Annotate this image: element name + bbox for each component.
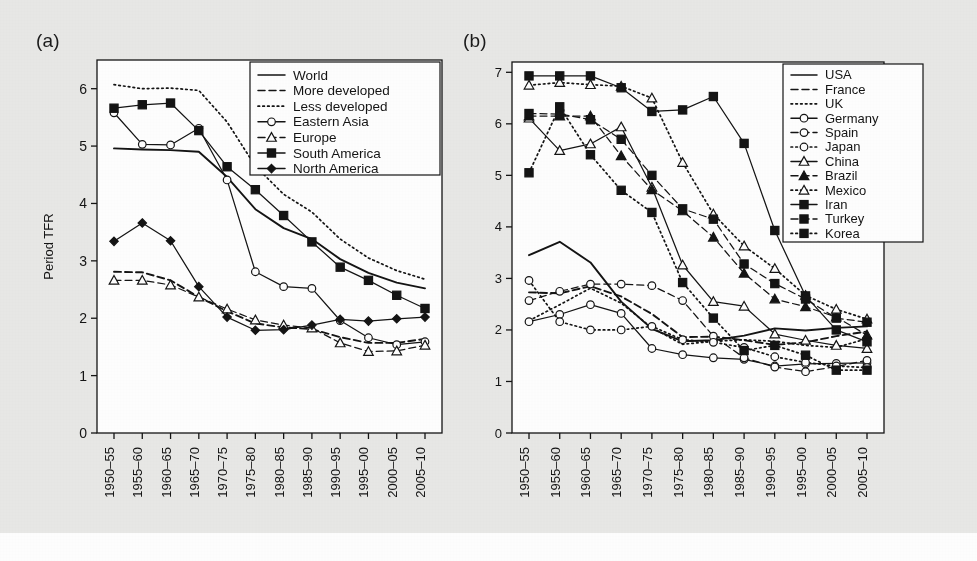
data-point-marker xyxy=(832,314,840,322)
legend-item-label: Korea xyxy=(825,226,860,241)
data-point-marker xyxy=(679,106,687,114)
legend-marker-sample xyxy=(267,149,275,157)
y-tick-label: 2 xyxy=(495,322,502,337)
data-point-marker xyxy=(648,171,656,179)
y-axis-title: Period TFR xyxy=(41,213,56,279)
legend-item-label: Japan xyxy=(825,139,860,154)
data-point-marker xyxy=(617,135,625,143)
data-point-marker xyxy=(167,141,175,149)
data-point-marker xyxy=(336,263,344,271)
data-point-marker xyxy=(525,109,533,117)
y-tick-label: 1 xyxy=(495,374,502,389)
panel-a: 0123456Period TFR1950–551955–601960–6519… xyxy=(41,60,442,498)
data-point-marker xyxy=(801,351,809,359)
data-point-marker xyxy=(525,297,533,305)
y-tick-label: 5 xyxy=(495,168,502,183)
data-point-marker xyxy=(556,103,564,111)
x-tick-label: 1995–00 xyxy=(356,447,371,498)
data-point-marker xyxy=(587,326,595,334)
data-point-marker xyxy=(166,99,174,107)
data-point-marker xyxy=(863,318,871,326)
data-point-marker xyxy=(740,139,748,147)
data-point-marker xyxy=(421,304,429,312)
legend-marker-sample xyxy=(268,118,276,126)
data-point-marker xyxy=(709,215,717,223)
y-tick-label: 6 xyxy=(495,116,502,131)
data-point-marker xyxy=(832,326,840,334)
x-tick-label: 1990–95 xyxy=(328,447,343,498)
data-point-marker xyxy=(801,295,809,303)
data-point-marker xyxy=(771,353,779,361)
x-tick-label: 1970–75 xyxy=(640,447,655,498)
data-point-marker xyxy=(586,72,594,80)
legend-item-label: Brazil xyxy=(825,168,858,183)
data-point-marker xyxy=(587,280,595,288)
data-point-marker xyxy=(223,176,231,184)
data-point-marker xyxy=(740,346,748,354)
y-tick-label: 4 xyxy=(495,219,502,234)
data-point-marker xyxy=(771,341,779,349)
panel-b-legend: USAFranceUKGermanySpainJapanChinaBrazilM… xyxy=(783,64,923,242)
data-point-marker xyxy=(709,314,717,322)
data-point-marker xyxy=(648,323,656,331)
data-point-marker xyxy=(863,357,871,365)
data-point-marker xyxy=(648,208,656,216)
legend-item-label: Spain xyxy=(825,125,858,140)
data-point-marker xyxy=(308,238,316,246)
data-point-marker xyxy=(771,226,779,234)
data-point-marker xyxy=(617,310,625,318)
data-point-marker xyxy=(617,326,625,334)
data-point-marker xyxy=(556,318,564,326)
data-point-marker xyxy=(587,301,595,309)
y-tick-label: 0 xyxy=(79,425,87,441)
legend-marker-sample xyxy=(800,143,808,151)
legend-item-label: Eastern Asia xyxy=(293,114,369,129)
x-tick-label: 1950–55 xyxy=(102,447,117,498)
data-point-marker xyxy=(556,311,564,319)
data-point-marker xyxy=(863,338,871,346)
data-point-marker xyxy=(280,283,288,291)
x-tick-label: 1960–65 xyxy=(159,447,174,498)
data-point-marker xyxy=(393,291,401,299)
data-point-marker xyxy=(679,297,687,305)
data-point-marker xyxy=(252,268,260,276)
x-tick-label: 1970–75 xyxy=(215,447,230,498)
x-tick-label: 1965–70 xyxy=(187,447,202,498)
data-point-marker xyxy=(223,163,231,171)
data-point-marker xyxy=(525,318,533,326)
y-tick-label: 2 xyxy=(79,310,87,326)
data-point-marker xyxy=(710,354,718,362)
panel-b: 012345671950–551955–601960–651965–701970… xyxy=(495,62,923,498)
y-tick-label: 3 xyxy=(79,253,87,269)
x-tick-label: 2000–05 xyxy=(385,447,400,498)
x-tick-label: 1955–60 xyxy=(548,447,563,498)
legend-item-label: China xyxy=(825,154,860,169)
data-point-marker xyxy=(771,363,779,371)
legend-item-label: North America xyxy=(293,161,379,176)
panel-b-y-axis: 01234567 xyxy=(495,65,512,441)
legend-item-label: More developed xyxy=(293,83,390,98)
data-point-marker xyxy=(771,279,779,287)
panel-a-label: (a) xyxy=(36,30,60,52)
data-point-marker xyxy=(556,72,564,80)
data-point-marker xyxy=(556,287,564,295)
data-point-marker xyxy=(648,282,656,290)
data-point-marker xyxy=(679,351,687,359)
x-tick-label: 1985–90 xyxy=(732,447,747,498)
legend-item-label: Less developed xyxy=(293,99,388,114)
legend-item-label: Turkey xyxy=(825,211,865,226)
data-point-marker xyxy=(251,186,259,194)
y-tick-label: 7 xyxy=(495,65,502,80)
data-point-marker xyxy=(802,368,810,376)
x-tick-label: 1980–85 xyxy=(701,447,716,498)
data-point-marker xyxy=(280,211,288,219)
legend-marker-sample xyxy=(800,114,808,122)
data-point-marker xyxy=(648,107,656,115)
x-tick-label: 1975–80 xyxy=(671,447,686,498)
y-tick-label: 5 xyxy=(79,138,87,154)
panel-a-y-axis: 0123456 xyxy=(79,81,97,441)
x-tick-label: 2005–10 xyxy=(855,447,870,498)
legend-item-label: Germany xyxy=(825,111,879,126)
y-tick-label: 3 xyxy=(495,271,502,286)
legend-marker-sample xyxy=(800,229,808,237)
